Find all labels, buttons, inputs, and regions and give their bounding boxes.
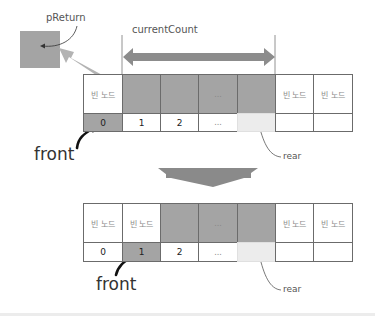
index-cell: [275, 242, 314, 262]
index-cell: [313, 113, 353, 132]
index-cell: ...: [198, 113, 238, 132]
rear-label-after: rear: [283, 284, 301, 294]
index-cell-front: 1: [122, 242, 161, 262]
index-cell: 2: [160, 113, 199, 132]
index-cell: 2: [160, 242, 199, 262]
node-cell-occupied: [160, 203, 199, 243]
index-cell: [275, 113, 314, 132]
front-label: front: [34, 144, 74, 164]
node-cell: 빈 노드: [275, 203, 314, 243]
node-cell: 빈 노드: [313, 203, 353, 243]
current-count-arrow-icon: [123, 48, 275, 66]
rear-label: rear: [283, 151, 301, 161]
node-cell: 빈 노드: [83, 74, 123, 114]
index-cell: ...: [198, 242, 238, 262]
node-cell: 빈 노드: [122, 203, 161, 243]
node-cell: 빈 노드: [83, 203, 123, 243]
node-cell-occupied: [160, 74, 199, 114]
node-cell-occupied: ...: [198, 74, 238, 114]
node-cell-occupied: ...: [198, 203, 238, 243]
node-cell: 빈 노드: [275, 74, 314, 114]
node-cell-occupied: [237, 203, 276, 243]
current-count-label: currentCount: [132, 24, 198, 35]
front-label-after: front: [96, 274, 136, 294]
preturn-label: pReturn: [46, 12, 86, 23]
index-cell: 0: [83, 242, 123, 262]
index-cell-front: 0: [83, 113, 123, 132]
index-cell: 1: [122, 113, 161, 132]
preturn-box: [20, 31, 60, 68]
index-cell: [313, 242, 353, 262]
index-cell-rear: [237, 113, 276, 132]
index-cell-rear: [237, 242, 276, 262]
node-cell-occupied: [237, 74, 276, 114]
node-cell: 빈 노드: [313, 74, 353, 114]
node-cell-occupied: [122, 74, 161, 114]
